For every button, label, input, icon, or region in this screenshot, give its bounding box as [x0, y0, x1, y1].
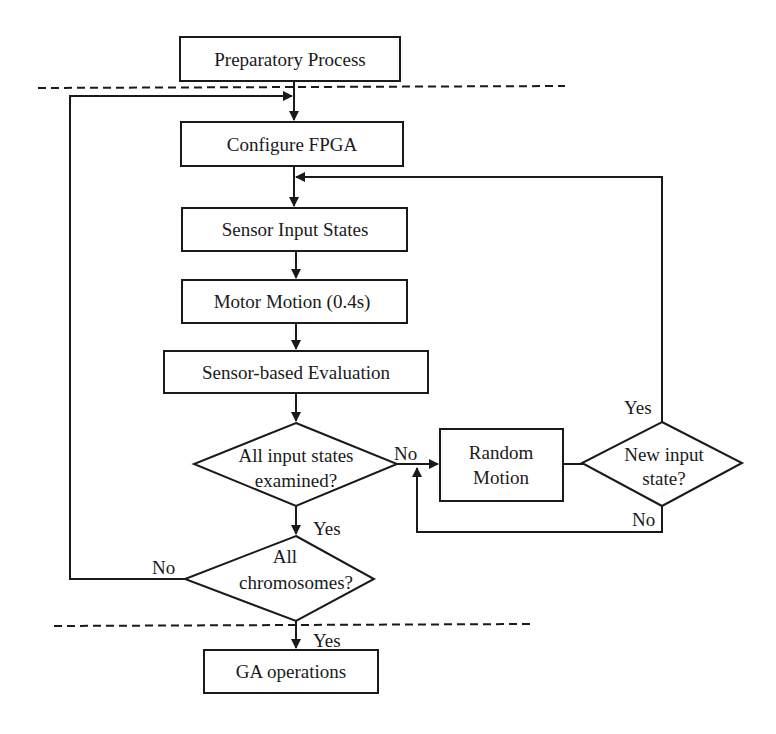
node-ga-operations: GA operations: [204, 650, 378, 693]
decision-line2: chromosomes?: [239, 572, 353, 593]
flowchart-canvas: Preparatory Process Configure FPGA Senso…: [0, 0, 776, 734]
decision-line2: examined?: [255, 470, 337, 491]
node-label: Sensor Input States: [222, 219, 369, 240]
node-label: GA operations: [236, 661, 346, 682]
node-random-motion: Random Motion: [440, 429, 563, 501]
decision-line1: All input states: [238, 445, 353, 466]
decision-line2: state?: [642, 468, 685, 489]
label-chromosomes-no: No: [152, 557, 175, 578]
node-label: Configure FPGA: [227, 134, 358, 155]
decision-all-chromosomes: All chromosomes?: [185, 536, 374, 621]
label-new-input-yes: Yes: [624, 397, 652, 418]
node-preparatory-process: Preparatory Process: [180, 37, 400, 81]
top-separator: [38, 86, 565, 88]
decision-new-input-state: New input state?: [582, 422, 742, 506]
node-motor-motion: Motor Motion (0.4s): [182, 280, 407, 323]
node-label: Sensor-based Evaluation: [202, 362, 390, 383]
edge-chromosomes-no: [70, 96, 292, 579]
node-line2: Motion: [473, 467, 529, 488]
label-chromosomes-yes: Yes: [313, 630, 341, 651]
label-all-input-no: No: [394, 443, 417, 464]
node-configure-fpga: Configure FPGA: [181, 122, 403, 166]
node-sensor-input-states: Sensor Input States: [182, 208, 407, 251]
decision-line1: New input: [624, 444, 704, 465]
label-new-input-no: No: [632, 509, 655, 530]
bottom-separator: [54, 624, 530, 626]
node-line1: Random: [469, 442, 534, 463]
decision-line1: All: [273, 546, 297, 567]
label-all-input-yes: Yes: [313, 518, 341, 539]
node-label: Preparatory Process: [214, 49, 365, 70]
decision-all-input-states: All input states examined?: [194, 423, 397, 506]
node-sensor-based-evaluation: Sensor-based Evaluation: [164, 351, 428, 393]
node-label: Motor Motion (0.4s): [214, 291, 371, 313]
